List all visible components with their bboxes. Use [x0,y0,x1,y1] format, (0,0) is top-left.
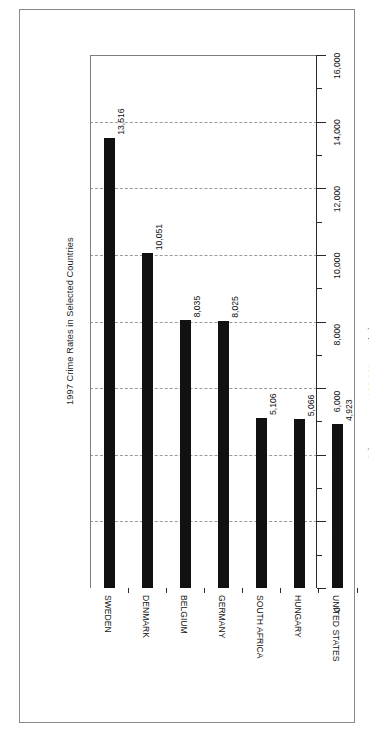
value-tick-major [317,122,326,123]
gridline [90,388,317,389]
bar [218,321,229,588]
bar-value-label: 4,923 [343,377,355,421]
category-label: SWEDEN [102,595,114,725]
bar [256,418,267,588]
value-tick-label: 16,000 [331,33,343,79]
category-label: GERMANY [216,595,228,725]
gridline [90,188,317,189]
value-tick-minor [317,288,322,289]
value-tick-major [317,188,326,189]
value-tick-label: 10,000 [331,233,343,279]
category-label: UNITED STATES [330,595,342,725]
bar-value-label: 5,106 [267,371,279,415]
bar [104,138,115,588]
value-tick-label: 4,000 [331,433,343,479]
category-label: BELGIUM [178,595,190,725]
gridline [90,455,317,456]
category-tick [318,588,319,593]
category-label: HUNGARY [292,595,304,725]
bar [142,253,153,588]
value-tick-label: 12,000 [331,166,343,212]
value-tick-major [317,521,326,522]
bar [294,419,305,588]
category-label: DENMARK [140,595,152,725]
category-tick [166,588,167,593]
value-tick-minor [317,222,322,223]
gridline [90,322,317,323]
bar-value-label: 13,516 [115,91,127,135]
category-tick [357,588,358,593]
gridline [90,255,317,256]
gridline [90,521,317,522]
value-tick-minor [317,155,322,156]
value-tick-major [317,455,326,456]
category-tick [280,588,281,593]
value-tick-minor [317,488,322,489]
value-tick-major [317,388,326,389]
bar-value-label: 8,035 [191,273,203,317]
value-tick-label: 6,000 [331,366,343,412]
bar-value-label: 10,051 [153,206,165,250]
category-label: SOUTH AFRICA [254,595,266,725]
value-tick-minor [317,421,322,422]
value-tick-major [317,322,326,323]
value-tick-minor [317,355,322,356]
value-tick-minor [317,555,322,556]
value-tick-major [317,55,326,56]
category-tick [204,588,205,593]
value-tick-label: 8,000 [331,300,343,346]
value-tick-minor [317,88,322,89]
chart-title: 1997 Crime Rates in Selected Countries [65,175,79,405]
plot-area: 13,51610,0518,0358,0255,1065,0664,9234,3… [90,55,317,588]
value-tick-label: 2,000 [331,499,343,545]
value-tick-label: 14,000 [331,100,343,146]
value-tick-major [317,255,326,256]
bar [180,320,191,588]
page-border: 1997 Crime Rates in Selected Countries C… [19,9,355,723]
bar-value-label: 8,025 [229,274,241,318]
category-tick [128,588,129,593]
category-tick [242,588,243,593]
